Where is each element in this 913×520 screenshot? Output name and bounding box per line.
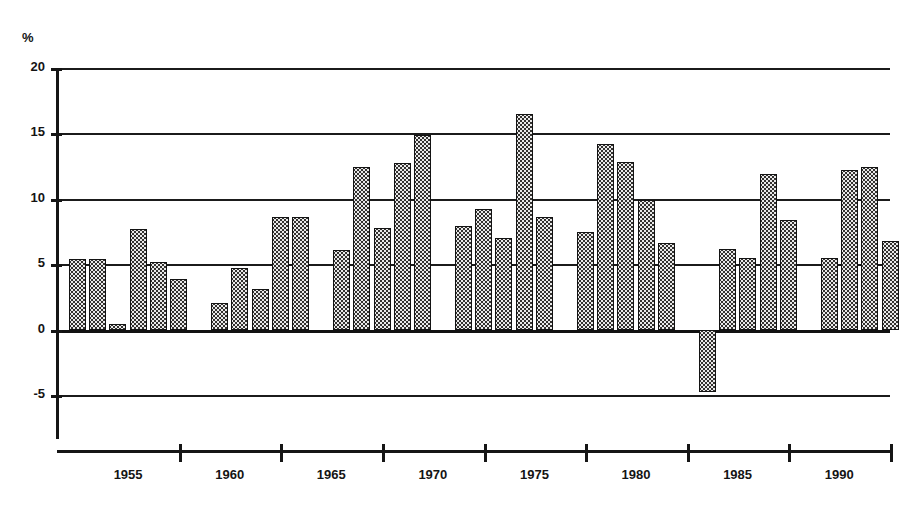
x-axis-label-1970: 1970: [403, 467, 463, 482]
x-axis: 19551960196519701975198019851990: [57, 450, 890, 453]
y-axis-label-10: 10: [5, 190, 45, 205]
bar: [821, 258, 838, 330]
gridline-0: [57, 330, 890, 333]
y-axis-spine: [56, 68, 59, 439]
bar: [353, 167, 370, 329]
bar: [252, 289, 269, 330]
bar: [211, 303, 228, 329]
bar: [374, 228, 391, 330]
bar: [882, 241, 899, 330]
x-axis-label-1975: 1975: [504, 467, 564, 482]
y-tick-10: [51, 199, 62, 202]
y-axis-label-15: 15: [5, 124, 45, 139]
x-tick-0: [179, 444, 182, 462]
bar: [109, 324, 126, 329]
x-tick-4: [585, 444, 588, 462]
bar: [577, 232, 594, 330]
y-tick-20: [51, 68, 62, 71]
bar: [841, 170, 858, 330]
bar: [272, 217, 289, 329]
bar: [739, 258, 756, 330]
x-axis-label-1955: 1955: [98, 467, 158, 482]
x-axis-label-1965: 1965: [301, 467, 361, 482]
bar-chart: % 20151050-5 195519601965197019751980198…: [0, 0, 913, 520]
bar: [170, 279, 187, 330]
bar: [780, 220, 797, 330]
bar: [394, 163, 411, 329]
y-tick-15: [51, 133, 62, 136]
bar: [760, 174, 777, 330]
y-axis-label--5: -5: [5, 386, 45, 401]
bar: [638, 200, 655, 329]
x-tick-6: [788, 444, 791, 462]
bar: [150, 262, 167, 330]
bar: [231, 268, 248, 329]
y-axis-label-5: 5: [5, 255, 45, 270]
y-tick--5: [51, 395, 62, 398]
bar: [658, 243, 675, 329]
bar: [861, 167, 878, 329]
bar: [414, 135, 431, 330]
bar: [89, 259, 106, 330]
y-axis-label-0: 0: [5, 321, 45, 336]
bar: [69, 259, 86, 330]
y-tick-0: [51, 330, 62, 333]
gridline-15: [57, 133, 890, 135]
x-tick-1: [280, 444, 283, 462]
gridline--5: [57, 395, 890, 397]
bar: [130, 229, 147, 330]
gridline-20: [57, 68, 890, 70]
bar: [333, 250, 350, 330]
plot-area: 20151050-5: [57, 68, 890, 395]
x-axis-label-1960: 1960: [200, 467, 260, 482]
x-tick-3: [484, 444, 487, 462]
bar: [495, 238, 512, 330]
bar: [536, 217, 553, 329]
bar: [455, 226, 472, 329]
y-axis-unit-label: %: [22, 30, 34, 45]
x-axis-label-1985: 1985: [708, 467, 768, 482]
bar: [617, 162, 634, 329]
y-tick-5: [51, 264, 62, 267]
x-axis-label-1980: 1980: [606, 467, 666, 482]
x-tick-2: [382, 444, 385, 462]
x-axis-label-1990: 1990: [809, 467, 869, 482]
x-tick-7: [890, 444, 893, 462]
bar: [292, 217, 309, 329]
bar: [699, 330, 716, 393]
bar: [719, 249, 736, 330]
x-tick-5: [687, 444, 690, 462]
bar: [516, 114, 533, 330]
bar: [475, 209, 492, 329]
y-axis-label-20: 20: [5, 59, 45, 74]
bar: [597, 144, 614, 330]
